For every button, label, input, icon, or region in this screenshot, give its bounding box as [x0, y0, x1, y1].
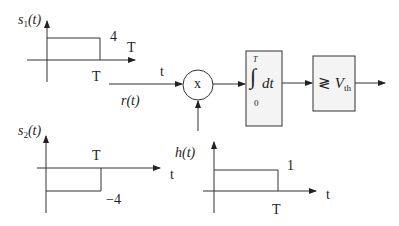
s1-period: T	[92, 70, 101, 84]
threshold-content: ≷ Vth	[318, 76, 351, 93]
input-axis-t: t	[160, 65, 164, 79]
diagram-lines	[0, 0, 399, 226]
integral-sign: ∫	[250, 66, 256, 88]
integral-lower: 0	[254, 99, 259, 108]
h-axis-t: t	[326, 188, 330, 202]
h-label: h(t)	[175, 146, 195, 160]
integral-body: dt	[262, 76, 274, 91]
s1-period-top: T	[127, 41, 136, 55]
h-plot	[203, 142, 316, 213]
integral-upper: T	[253, 56, 257, 64]
correlator-receiver-diagram: s1(t) 4 T T t r(t) x T ∫ dt 0 ≷ Vth s2(t…	[0, 0, 399, 226]
s2-amplitude: −4	[106, 193, 121, 207]
input-label: r(t)	[121, 94, 140, 108]
multiplier-symbol: x	[194, 77, 201, 91]
s2-axis-t: t	[170, 168, 174, 182]
s1-plot	[27, 21, 135, 82]
s2-period: T	[92, 149, 101, 163]
s1-label: s1(t)	[18, 13, 41, 29]
h-period: T	[272, 203, 281, 217]
h-amplitude: 1	[287, 159, 294, 173]
s1-amplitude: 4	[110, 30, 117, 44]
s2-label: s2(t)	[18, 124, 41, 140]
